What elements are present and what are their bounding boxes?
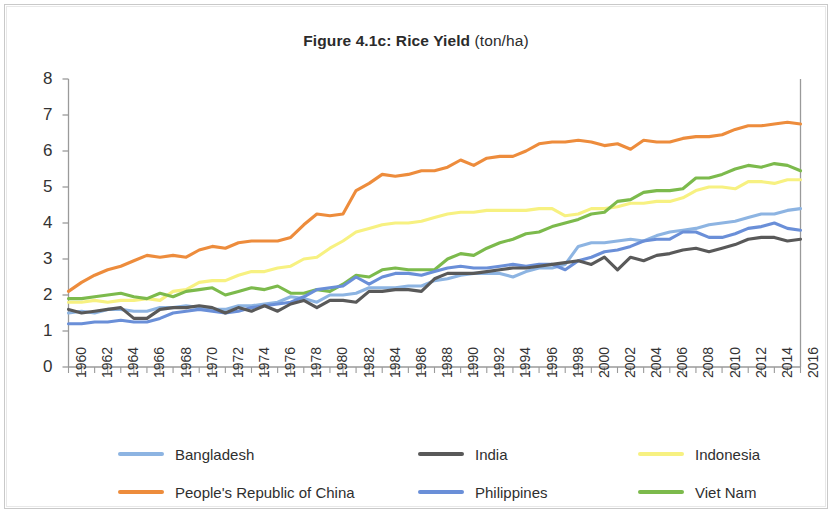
y-tick-label: 2 <box>27 286 53 303</box>
chart-legend: BangladeshIndiaIndonesiaPeople's Republi… <box>118 440 818 506</box>
legend-label: People's Republic of China <box>175 485 355 500</box>
x-tick-label: 2014 <box>780 347 794 378</box>
x-tick-label: 1980 <box>335 347 349 378</box>
axis-layer <box>63 79 801 373</box>
x-tick-label: 1964 <box>126 347 140 378</box>
chart-svg <box>0 0 832 513</box>
legend-label: Philippines <box>475 485 548 500</box>
legend-color-swatch <box>418 490 464 494</box>
x-tick-label: 2002 <box>623 347 637 378</box>
legend-label: Indonesia <box>695 447 760 462</box>
y-tick-label: 8 <box>27 70 53 87</box>
legend-color-swatch <box>638 490 684 494</box>
x-tick-label: 1992 <box>492 347 506 378</box>
legend-color-swatch <box>118 490 164 494</box>
legend-label: India <box>475 447 508 462</box>
legend-item-people-s-republic-of-china[interactable]: People's Republic of China <box>118 482 355 502</box>
legend-item-india[interactable]: India <box>418 444 508 464</box>
y-tick-label: 4 <box>27 214 53 231</box>
plot-area: 012345678 196019621964196619681970197219… <box>0 0 832 513</box>
x-tick-label: 1978 <box>309 347 323 378</box>
x-tick-label: 2008 <box>701 347 715 378</box>
legend-label: Bangladesh <box>175 447 254 462</box>
y-tick-label: 3 <box>27 250 53 267</box>
series-line-people-s-republic-of-china <box>69 122 801 291</box>
x-tick-label: 2012 <box>754 347 768 378</box>
legend-color-swatch <box>638 452 684 456</box>
x-tick-label: 1982 <box>362 347 376 378</box>
y-tick-label: 6 <box>27 142 53 159</box>
x-tick-label: 1968 <box>179 347 193 378</box>
x-tick-label: 1984 <box>388 347 402 378</box>
x-tick-label: 1962 <box>100 347 114 378</box>
chart-page: Figure 4.1c: Rice Yield (ton/ha) 0123456… <box>0 0 832 513</box>
y-tick-label: 7 <box>27 106 53 123</box>
x-tick-label: 2006 <box>675 347 689 378</box>
legend-item-viet-nam[interactable]: Viet Nam <box>638 482 756 502</box>
x-tick-label: 1994 <box>518 347 532 378</box>
x-tick-label: 1970 <box>205 347 219 378</box>
legend-color-swatch <box>118 452 164 456</box>
x-tick-label: 1998 <box>571 347 585 378</box>
x-tick-label: 1996 <box>545 347 559 378</box>
y-tick-label: 5 <box>27 178 53 195</box>
x-tick-label: 1974 <box>257 347 271 378</box>
x-tick-label: 2004 <box>649 347 663 378</box>
x-tick-label: 1990 <box>466 347 480 378</box>
series-layer <box>69 122 801 324</box>
x-tick-label: 2016 <box>806 347 820 378</box>
y-tick-label: 1 <box>27 322 53 339</box>
x-tick-label: 1988 <box>440 347 454 378</box>
x-tick-label: 1976 <box>283 347 297 378</box>
x-tick-label: 2000 <box>597 347 611 378</box>
legend-color-swatch <box>418 452 464 456</box>
x-tick-label: 1966 <box>152 347 166 378</box>
legend-item-bangladesh[interactable]: Bangladesh <box>118 444 254 464</box>
legend-label: Viet Nam <box>695 485 756 500</box>
y-tick-label: 0 <box>27 358 53 375</box>
series-line-india <box>69 237 801 318</box>
x-tick-label: 1986 <box>414 347 428 378</box>
x-tick-label: 1972 <box>231 347 245 378</box>
legend-item-philippines[interactable]: Philippines <box>418 482 548 502</box>
x-tick-label: 1960 <box>74 347 88 378</box>
x-tick-label: 2010 <box>728 347 742 378</box>
series-line-bangladesh <box>69 209 801 313</box>
series-line-indonesia <box>69 180 801 302</box>
legend-item-indonesia[interactable]: Indonesia <box>638 444 760 464</box>
